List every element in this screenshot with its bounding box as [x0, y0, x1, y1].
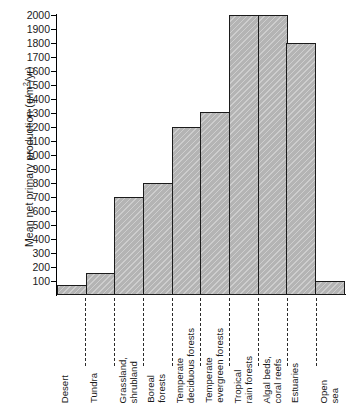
y-axis-tick-label: 1500: [27, 80, 50, 91]
x-axis-category-label: Tropical rain forests: [232, 356, 255, 403]
y-axis-tick-label: 100: [32, 276, 50, 287]
y-axis-tick-label: 800: [32, 178, 50, 189]
category-divider-dashed: [143, 298, 144, 366]
x-axis-category-label: Temperate deciduous forests: [174, 328, 197, 403]
x-axis-category-label: Estuaries: [289, 363, 300, 403]
x-axis-category-label: Open sea: [318, 380, 341, 403]
category-divider-dashed: [200, 298, 201, 366]
x-axis-category: Tropical rain forests: [230, 296, 259, 405]
x-axis-category: Boreal forests: [143, 296, 172, 405]
y-axis-tick-label: 1300: [27, 108, 50, 119]
bar: [315, 281, 345, 295]
bar-series: [57, 15, 345, 295]
x-axis-category: Estuaries: [287, 296, 316, 405]
category-divider-dashed: [172, 298, 173, 366]
y-axis-tick-label: 1600: [27, 66, 50, 77]
bar: [172, 127, 202, 295]
y-axis-tick-label: 1900: [27, 24, 50, 35]
y-axis-tick-label: 1800: [27, 38, 50, 49]
category-divider-dashed: [287, 298, 288, 366]
y-axis-tick-label: 2000: [27, 10, 50, 21]
category-divider-dashed: [258, 298, 259, 366]
x-axis-category-labels: DesertTundraGrassland, shrublandBoreal f…: [57, 296, 345, 405]
y-axis-tick-label: 1400: [27, 94, 50, 105]
category-divider-dashed: [316, 298, 317, 366]
y-axis-tick-label: 1000: [27, 150, 50, 161]
x-axis-category: Algal beds, coral reefs: [259, 296, 288, 405]
bar-chart-figure: Mean net primary production (g/m2/yr) 20…: [0, 0, 351, 405]
category-divider-dashed: [85, 298, 86, 366]
y-axis-tick-label: 500: [32, 220, 50, 231]
y-axis-tick-label: 200: [32, 262, 50, 273]
x-axis-category: Desert: [57, 296, 86, 405]
category-divider-dashed: [114, 298, 115, 366]
x-axis-category: Open sea: [316, 296, 345, 405]
x-axis-category: Grassland, shrubland: [115, 296, 144, 405]
x-axis-category: Tundra: [86, 296, 115, 405]
x-axis-category-label: Boreal forests: [145, 374, 168, 403]
y-axis-tick-label: 1100: [27, 136, 50, 147]
bar: [229, 15, 259, 295]
x-axis-category-label: Grassland, shrubland: [117, 357, 140, 403]
y-axis-tick-label: 700: [32, 192, 50, 203]
bar: [114, 197, 144, 295]
bar: [258, 15, 288, 295]
bar: [143, 183, 173, 295]
x-axis-category-label: Desert: [59, 375, 70, 403]
x-axis-category-label: Algal beds, coral reefs: [261, 356, 284, 403]
x-axis-category-label: Tundra: [88, 373, 99, 403]
bar: [86, 273, 116, 295]
y-axis-tick-label: 600: [32, 206, 50, 217]
y-axis-tick-label: 1700: [27, 52, 50, 63]
plot-area: 2000190018001700160015001400130012001100…: [57, 15, 345, 295]
x-axis-category: Temperate deciduous forests: [172, 296, 201, 405]
bar: [57, 285, 87, 295]
y-axis-tick-label: 400: [32, 234, 50, 245]
x-axis-category: Temperate evergreen forests: [201, 296, 230, 405]
y-axis-tick-label: 1200: [27, 122, 50, 133]
y-axis-tick-label: 300: [32, 248, 50, 259]
x-axis-category-label: Temperate evergreen forests: [203, 328, 226, 403]
bar: [200, 112, 230, 295]
category-divider-dashed: [229, 298, 230, 366]
y-axis-tick-label: 900: [32, 164, 50, 175]
bar: [286, 43, 316, 295]
